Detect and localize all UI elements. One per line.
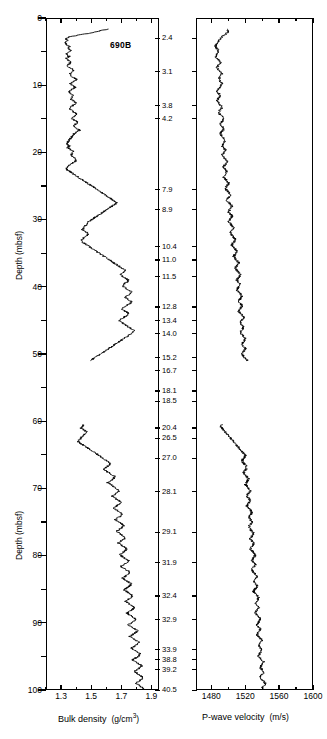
core-age-label: 4.2 (162, 115, 193, 123)
core-age-label: 29.1 (162, 528, 193, 536)
core-age-label: 14.0 (162, 330, 193, 338)
core-age-label: 20.4 (162, 424, 193, 432)
core-age-label: 13.4 (162, 317, 193, 325)
x-tick-major (60, 685, 61, 690)
x-tick-minor-top (76, 18, 77, 21)
core-age-label: 31.9 (162, 559, 193, 567)
core-boundary-tick-left (155, 189, 160, 190)
x-tick-minor-top (106, 18, 107, 21)
core-boundary-tick-left (155, 306, 160, 307)
x-tick-major-top (278, 18, 279, 23)
depth-tick-label: 90 (0, 619, 42, 628)
p-wave-velocity-plot[interactable] (196, 18, 313, 690)
core-age-label: 3.1 (162, 68, 193, 76)
hole-label: 690B (110, 40, 132, 50)
x-tick-major-top (245, 18, 246, 23)
core-boundary-tick-left (155, 38, 160, 39)
depth-tick-label: 60 (0, 417, 42, 426)
core-boundary-tick-left (155, 659, 160, 660)
core-age-label: 38.8 (162, 656, 193, 664)
x-tick-minor (295, 687, 296, 690)
core-age-label: 2.4 (162, 34, 193, 42)
core-age-label: 12.8 (162, 303, 193, 311)
core-boundary-tick-left (155, 491, 160, 492)
core-age-label: 15.2 (162, 354, 193, 362)
x-tick-major-top (312, 18, 313, 23)
core-age-label: 10.4 (162, 243, 193, 251)
core-boundary-tick-left (155, 619, 160, 620)
bulk-density-axis-caption: Bulk density (g/cm3) (58, 712, 139, 724)
core-boundary-tick-left (155, 390, 160, 391)
core-age-label: 26.5 (162, 434, 193, 442)
depth-tick-label: 50 (0, 350, 42, 359)
x-tick-major-top (121, 18, 122, 23)
core-boundary-tick-left (155, 401, 160, 402)
core-boundary-tick-left (155, 71, 160, 72)
x-tick-minor-top (262, 18, 263, 21)
x-tick-major (211, 685, 212, 690)
x-tick-label: 1.9 (131, 692, 171, 701)
core-boundary-tick-left (155, 595, 160, 596)
x-tick-label: 1600 (293, 692, 327, 701)
x-tick-major-top (60, 18, 61, 23)
core-boundary-tick-left (155, 438, 160, 439)
core-age-label: 8.9 (162, 206, 193, 214)
p-wave-caption-unit: (m/s) (267, 712, 289, 722)
core-boundary-tick-left (155, 246, 160, 247)
core-age-label: 18.5 (162, 397, 193, 405)
core-boundary-tick-left (155, 669, 160, 670)
core-boundary-tick-left (155, 333, 160, 334)
depth-tick-label: 40 (0, 283, 42, 292)
bulk-density-plot[interactable] (46, 18, 159, 690)
core-boundary-tick-left (155, 320, 160, 321)
core-age-label: 18.1 (162, 387, 193, 395)
core-age-label: 11.5 (162, 273, 193, 281)
depth-tick-label: 20 (0, 148, 42, 157)
x-tick-minor (106, 687, 107, 690)
core-age-label: 7.9 (162, 186, 193, 194)
core-boundary-tick-left (155, 118, 160, 119)
core-boundary-tick-left (155, 562, 160, 563)
depth-tick-label: 0 (0, 14, 42, 23)
x-tick-minor (45, 687, 46, 690)
core-boundary-tick-left (155, 259, 160, 260)
x-tick-major (312, 685, 313, 690)
x-tick-major-top (91, 18, 92, 23)
depth-axis-title-upper: Depth (mbsf) (14, 231, 24, 280)
x-tick-major (121, 685, 122, 690)
x-tick-minor-top (295, 18, 296, 21)
x-tick-major-top (211, 18, 212, 23)
core-age-label: 11.0 (162, 256, 193, 264)
x-tick-major (91, 685, 92, 690)
x-tick-minor (136, 687, 137, 690)
bulk-density-caption-text: Bulk density (58, 714, 107, 724)
core-age-label: 32.4 (162, 592, 193, 600)
x-tick-minor (228, 687, 229, 690)
core-age-label: 28.1 (162, 488, 193, 496)
core-age-label: 39.2 (162, 666, 193, 674)
x-tick-minor-top (136, 18, 137, 21)
core-boundary-tick-left (155, 458, 160, 459)
core-boundary-tick-left (155, 370, 160, 371)
p-wave-axis-caption: P-wave velocity (m/s) (202, 712, 289, 722)
core-boundary-tick-left (155, 649, 160, 650)
p-wave-velocity-trace (197, 19, 312, 689)
core-boundary-tick-left (155, 357, 160, 358)
core-boundary-tick-left (155, 532, 160, 533)
core-age-label: 32.9 (162, 616, 193, 624)
depth-tick-label: 10 (0, 81, 42, 90)
x-tick-minor (262, 687, 263, 690)
core-age-label: 27.0 (162, 454, 193, 462)
core-age-column: 2.43.13.84.27.98.910.411.011.512.813.414… (159, 18, 196, 690)
core-age-label: 33.9 (162, 646, 193, 654)
x-tick-minor (76, 687, 77, 690)
core-age-label: 3.8 (162, 102, 193, 110)
bulk-density-trace (47, 19, 158, 689)
core-boundary-tick-left (155, 105, 160, 106)
depth-tick-label: 70 (0, 484, 42, 493)
core-age-label: 16.7 (162, 367, 193, 375)
core-boundary-tick-left (155, 209, 160, 210)
core-boundary-tick-left (155, 427, 160, 428)
depth-tick-label: 30 (0, 215, 42, 224)
